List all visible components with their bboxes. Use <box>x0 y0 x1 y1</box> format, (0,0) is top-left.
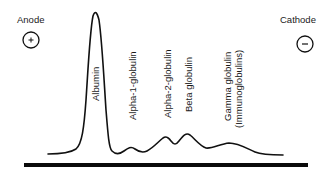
anode-label: Anode <box>17 14 44 25</box>
peak-label-albumin: Albumin <box>91 67 101 101</box>
anode-icon <box>23 32 39 48</box>
peak-sublabel-immunoglobulins: (Immunoglobulins) <box>234 50 244 128</box>
peak-label-beta-globulin: Beta globulin <box>184 57 194 112</box>
peak-label-alpha-2-globulin: Alpha-2-globulin <box>163 49 173 118</box>
cathode-icon <box>297 36 313 52</box>
peak-label-alpha-1-globulin: Alpha-1-globulin <box>128 51 138 120</box>
gel-baseline <box>24 163 308 167</box>
cathode-label: Cathode <box>280 14 316 25</box>
peak-label-gamma-globulin: Gamma globulin <box>223 52 233 121</box>
